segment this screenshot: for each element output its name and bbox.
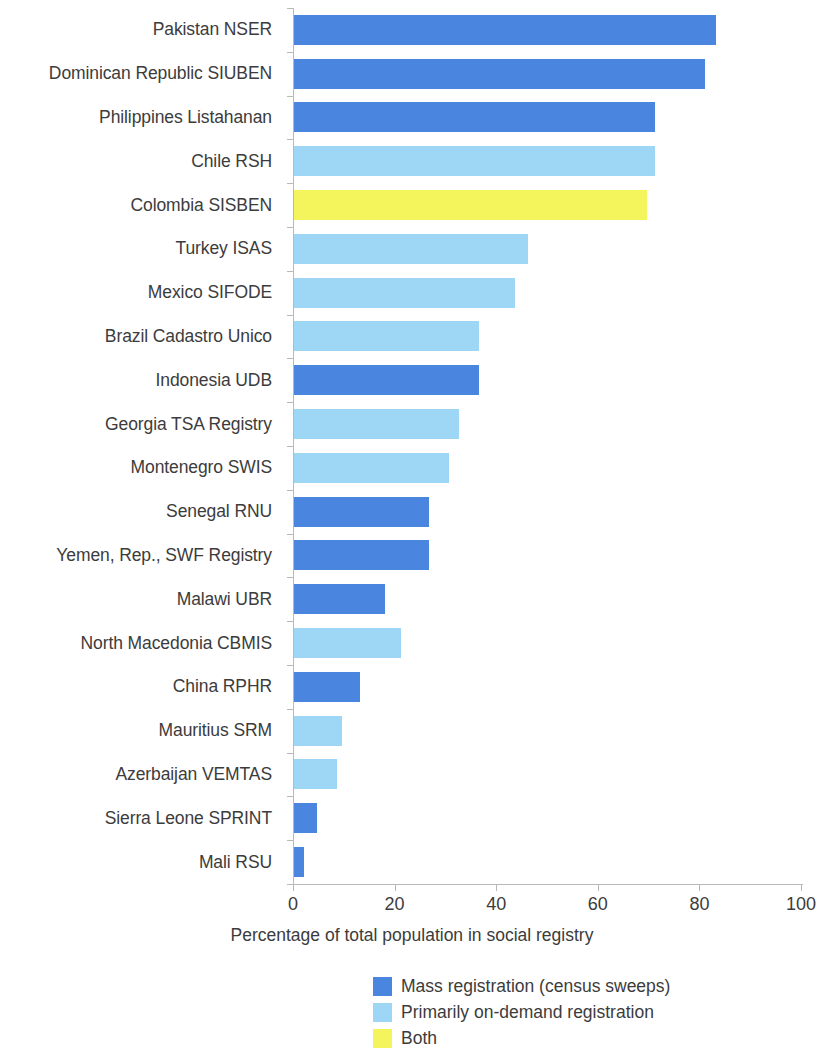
bar-row xyxy=(294,52,802,96)
legend-swatch-icon xyxy=(373,977,392,996)
y-axis-tick xyxy=(287,96,293,97)
legend-item-mass: Mass registration (census sweeps) xyxy=(373,976,670,997)
legend-item-both: Both xyxy=(373,1028,670,1049)
bar xyxy=(294,540,429,570)
bar-row xyxy=(294,96,802,140)
bar xyxy=(294,453,449,483)
y-axis-tick xyxy=(287,753,293,754)
bar xyxy=(294,628,401,658)
y-axis-tick xyxy=(287,490,293,491)
y-axis-label: Indonesia UDB xyxy=(0,358,282,402)
bar-row xyxy=(294,490,802,534)
y-axis-tick xyxy=(287,446,293,447)
bar-row xyxy=(294,534,802,578)
bar-row xyxy=(294,271,802,315)
x-axis-tick-label: 20 xyxy=(385,894,405,915)
bar xyxy=(294,15,716,45)
y-axis-label: Sierra Leone SPRINT xyxy=(0,796,282,840)
y-axis-label: Colombia SISBEN xyxy=(0,183,282,227)
bar xyxy=(294,146,655,176)
y-axis-tick xyxy=(287,315,293,316)
bar xyxy=(294,497,429,527)
bar-row xyxy=(294,315,802,359)
y-axis-tick xyxy=(287,271,293,272)
bar-row xyxy=(294,227,802,271)
bar-rows xyxy=(294,8,802,884)
y-axis-tick xyxy=(287,709,293,710)
bar xyxy=(294,365,479,395)
bar xyxy=(294,409,459,439)
y-axis-label: Azerbaijan VEMTAS xyxy=(0,753,282,797)
x-axis-line xyxy=(293,884,803,885)
bar-row xyxy=(294,796,802,840)
legend-item-ondemand: Primarily on-demand registration xyxy=(373,1002,670,1023)
legend: Mass registration (census sweeps)Primari… xyxy=(373,976,670,1049)
y-axis-label: Dominican Republic SIUBEN xyxy=(0,52,282,96)
y-axis-label: Chile RSH xyxy=(0,139,282,183)
bar-row xyxy=(294,665,802,709)
y-axis-tick xyxy=(287,227,293,228)
y-axis-label: North Macedonia CBMIS xyxy=(0,621,282,665)
bar xyxy=(294,584,385,614)
bar-row xyxy=(294,358,802,402)
x-axis-title: Percentage of total population in social… xyxy=(0,925,824,946)
y-axis-tick xyxy=(287,52,293,53)
x-axis-tick-label: 40 xyxy=(486,894,506,915)
bar-row xyxy=(294,840,802,884)
x-axis-tick xyxy=(496,884,497,891)
legend-swatch-icon xyxy=(373,1003,392,1022)
social-registry-coverage-chart: Pakistan NSERDominican Republic SIUBENPh… xyxy=(0,0,824,1062)
y-axis-tick xyxy=(287,534,293,535)
y-axis-category-labels: Pakistan NSERDominican Republic SIUBENPh… xyxy=(0,8,282,884)
x-axis-tick-label: 80 xyxy=(689,894,709,915)
legend-label: Both xyxy=(401,1028,437,1049)
y-axis-tick xyxy=(287,665,293,666)
y-axis-label: Yemen, Rep., SWF Registry xyxy=(0,534,282,578)
y-axis-tick xyxy=(287,621,293,622)
bar xyxy=(294,672,360,702)
bar-row xyxy=(294,8,802,52)
x-axis-tick xyxy=(293,884,294,891)
y-axis-tick xyxy=(287,358,293,359)
x-axis-tick-label: 60 xyxy=(588,894,608,915)
y-axis-label: Mali RSU xyxy=(0,840,282,884)
x-axis-tick-label: 0 xyxy=(288,894,298,915)
y-axis-label: Georgia TSA Registry xyxy=(0,402,282,446)
y-axis-tick xyxy=(287,796,293,797)
y-axis-tick xyxy=(287,139,293,140)
x-axis-tick xyxy=(395,884,396,891)
y-axis-tick xyxy=(287,183,293,184)
bar xyxy=(294,759,337,789)
legend-label: Mass registration (census sweeps) xyxy=(401,976,670,997)
bar-row xyxy=(294,621,802,665)
bar xyxy=(294,716,342,746)
x-axis-tick xyxy=(598,884,599,891)
y-axis-label: Brazil Cadastro Unico xyxy=(0,315,282,359)
y-axis-label: Senegal RNU xyxy=(0,490,282,534)
bar xyxy=(294,190,647,220)
bar-row xyxy=(294,446,802,490)
y-axis-label: Malawi UBR xyxy=(0,577,282,621)
y-axis-label: Mexico SIFODE xyxy=(0,271,282,315)
y-axis-label: Turkey ISAS xyxy=(0,227,282,271)
bar xyxy=(294,59,705,89)
bar-row xyxy=(294,183,802,227)
bar xyxy=(294,321,479,351)
y-axis-label: Philippines Listahanan xyxy=(0,96,282,140)
x-axis-tick xyxy=(801,884,802,891)
bar-row xyxy=(294,753,802,797)
bar xyxy=(294,803,317,833)
bar xyxy=(294,278,515,308)
y-axis-label: Pakistan NSER xyxy=(0,8,282,52)
y-axis-tick xyxy=(287,577,293,578)
bar xyxy=(294,102,655,132)
legend-label: Primarily on-demand registration xyxy=(401,1002,654,1023)
y-axis-tick xyxy=(287,402,293,403)
y-axis-label: Montenegro SWIS xyxy=(0,446,282,490)
bar xyxy=(294,847,304,877)
y-axis-tick xyxy=(287,8,293,9)
x-axis-tick-label: 100 xyxy=(786,894,816,915)
bar-row xyxy=(294,402,802,446)
bar-row xyxy=(294,577,802,621)
bar-row xyxy=(294,709,802,753)
